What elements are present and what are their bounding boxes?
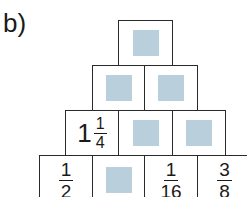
pyramid-cell-r3c2[interactable]	[118, 110, 173, 156]
pyramid-cell-r4c2[interactable]	[92, 155, 145, 197]
blank-answer-box[interactable]	[106, 167, 132, 193]
fraction: 3 8	[217, 160, 232, 198]
pyramid-cell-r1c1[interactable]	[118, 20, 173, 66]
pyramid-cell-r2c1[interactable]	[92, 65, 145, 111]
pyramid-cell-r2c2[interactable]	[144, 65, 198, 111]
exercise-label: b)	[3, 10, 26, 36]
fraction: 1 4	[94, 116, 107, 151]
pyramid-cell-r4c1: 1 2	[39, 155, 93, 197]
blank-answer-box[interactable]	[133, 30, 159, 56]
blank-answer-box[interactable]	[106, 75, 132, 101]
pyramid-cell-r4c4: 3 8	[197, 155, 247, 197]
fraction: 1 2	[59, 160, 74, 198]
mixed-number: 1 1 4	[77, 116, 106, 151]
blank-answer-box[interactable]	[133, 120, 159, 146]
blank-answer-box[interactable]	[186, 120, 212, 146]
fraction: 1 16	[160, 160, 181, 198]
pyramid-cell-r4c3: 1 16	[144, 155, 198, 197]
whole-part: 1	[77, 120, 91, 146]
pyramid-cell-r3c3[interactable]	[172, 110, 226, 156]
pyramid-cell-r3c1: 1 1 4	[65, 110, 119, 156]
blank-answer-box[interactable]	[158, 75, 184, 101]
